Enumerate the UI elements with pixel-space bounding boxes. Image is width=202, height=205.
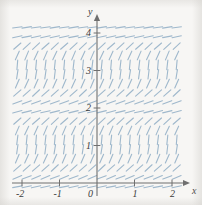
- slope-segment: [41, 186, 50, 188]
- slope-segment: [165, 154, 169, 163]
- slope-segment: [134, 27, 143, 28]
- slope-segment: [31, 27, 40, 28]
- slope-segment: [116, 36, 125, 38]
- slope-segment: [137, 79, 141, 88]
- slope-segment: [128, 154, 132, 163]
- slope-segment: [135, 176, 144, 180]
- slope-segment: [92, 60, 93, 69]
- slope-segment: [110, 145, 111, 154]
- slope-segment: [89, 43, 96, 49]
- slope-segment: [100, 126, 104, 135]
- slope-segment: [92, 135, 93, 144]
- slope-segment: [26, 145, 27, 154]
- slope-segment: [72, 51, 76, 60]
- slope-segment: [101, 145, 103, 154]
- slope-segment: [90, 126, 94, 135]
- slope-segment: [35, 145, 36, 154]
- slope-segment: [148, 70, 149, 79]
- slope-segment: [136, 118, 143, 124]
- slope-segment: [106, 36, 115, 38]
- slope-segment: [45, 145, 46, 154]
- y-tick-label-one: 1: [86, 141, 91, 151]
- slope-segment: [107, 43, 114, 49]
- x-tick-label-two: 2: [170, 189, 175, 199]
- slope-segment: [23, 90, 30, 96]
- slope-segment: [176, 135, 177, 144]
- slope-segment: [117, 90, 124, 96]
- slope-segment: [144, 27, 153, 29]
- slope-segment: [126, 90, 133, 97]
- slope-segment: [136, 90, 143, 96]
- slope-segment: [73, 70, 74, 79]
- slope-segment: [13, 27, 22, 28]
- slope-segment: [89, 90, 96, 96]
- slope-segment: [14, 118, 21, 124]
- slope-segment: [116, 186, 125, 188]
- slope-segment: [70, 165, 77, 171]
- slope-segment: [165, 79, 169, 88]
- slope-segment: [176, 145, 177, 154]
- x-tick-label-one: 1: [133, 189, 138, 199]
- slope-segment: [82, 60, 83, 69]
- slope-segment: [59, 27, 68, 28]
- slope-segment: [34, 51, 38, 60]
- slope-segment: [22, 36, 31, 38]
- slope-segment: [41, 101, 50, 104]
- slope-segment: [154, 118, 161, 124]
- slope-segment: [106, 111, 115, 114]
- slope-segment: [164, 118, 171, 124]
- slope-segment: [36, 135, 37, 144]
- slope-segment: [116, 111, 125, 113]
- slope-segment: [64, 135, 65, 144]
- slope-segment: [157, 135, 158, 144]
- slope-segment: [135, 111, 144, 113]
- slope-segment: [97, 36, 106, 38]
- slope-segment: [156, 79, 160, 88]
- slope-segment: [13, 101, 22, 104]
- slope-segment: [154, 43, 161, 49]
- slope-segment: [62, 154, 66, 163]
- slope-segment: [125, 36, 134, 38]
- slope-segment: [147, 51, 151, 60]
- slope-segment: [100, 51, 104, 60]
- slope-segment: [25, 51, 29, 60]
- slope-segment: [63, 70, 64, 79]
- slope-segment: [33, 90, 40, 97]
- slope-segment: [136, 43, 143, 49]
- slope-segment: [153, 27, 162, 28]
- slope-segment: [69, 27, 78, 28]
- y-tick-label-two: 2: [86, 103, 91, 113]
- slope-segment: [51, 165, 58, 172]
- slope-segment: [175, 126, 179, 135]
- slope-field-plot: [0, 0, 202, 205]
- slope-segment: [136, 165, 143, 171]
- slope-segment: [54, 60, 55, 69]
- slope-segment: [117, 118, 124, 124]
- slope-segment: [153, 36, 162, 38]
- slope-segment: [109, 154, 113, 163]
- slope-segment: [153, 111, 162, 114]
- slope-segment: [144, 186, 153, 188]
- slope-segment: [137, 154, 141, 163]
- slope-segment: [31, 36, 40, 38]
- slope-segment: [60, 101, 69, 104]
- slope-segment: [34, 154, 38, 163]
- slope-segment: [14, 43, 21, 49]
- slope-segment: [15, 79, 19, 88]
- slope-segment: [54, 135, 55, 144]
- slope-segment: [116, 27, 125, 28]
- slope-segment: [54, 145, 56, 154]
- slope-segment: [97, 176, 106, 179]
- x-axis-label: x: [192, 186, 196, 196]
- slope-segment: [34, 79, 38, 88]
- slope-segment: [164, 165, 171, 171]
- slope-segment: [120, 135, 121, 144]
- slope-segment: [41, 36, 50, 38]
- x-tick-label-neg2: -2: [16, 189, 24, 199]
- slope-segment: [98, 165, 105, 172]
- slope-segment: [164, 90, 171, 96]
- slope-segment: [60, 176, 69, 180]
- slope-segment: [64, 145, 65, 154]
- slope-segment: [176, 70, 178, 79]
- slope-segment: [106, 186, 115, 188]
